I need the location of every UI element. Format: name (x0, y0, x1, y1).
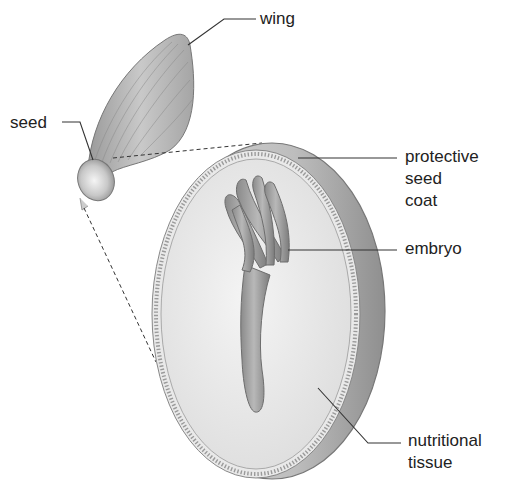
label-nutritional-tissue-line-1: nutritional (408, 430, 482, 452)
projection-line-bottom (84, 208, 156, 362)
leader-seed (62, 122, 93, 160)
label-nutritional-tissue: nutritional tissue (408, 430, 482, 474)
label-seed-coat-line-1: protective (405, 146, 479, 168)
label-wing: wing (260, 8, 295, 30)
label-seed-coat: protective seed coat (405, 146, 479, 212)
label-seed-coat-line-2: seed (405, 168, 479, 190)
label-nutritional-tissue-line-2: tissue (408, 452, 482, 474)
label-embryo: embryo (405, 238, 462, 260)
label-seed: seed (10, 112, 47, 134)
leader-wing (188, 19, 256, 45)
label-seed-coat-line-3: coat (405, 190, 479, 212)
